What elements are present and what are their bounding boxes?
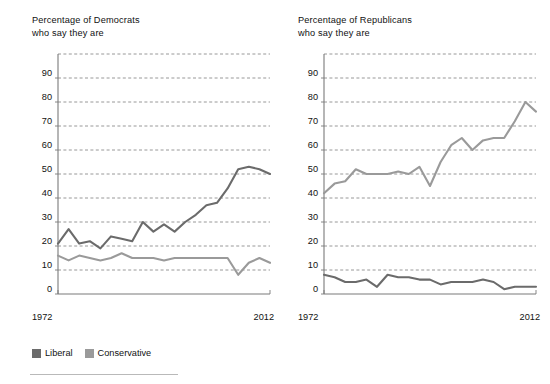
svg-text:0: 0 [47,284,52,294]
svg-text:60: 60 [308,140,318,150]
plot-area-republicans: 0102030405060708090 [298,52,540,310]
svg-text:70: 70 [42,116,52,126]
chart-legend: Liberal Conservative [32,348,151,358]
svg-text:40: 40 [42,188,52,198]
chart-figure: Percentage of Democrats who say they are… [0,0,550,384]
svg-text:0: 0 [313,284,318,294]
svg-text:80: 80 [42,92,52,102]
svg-text:80: 80 [308,92,318,102]
svg-text:10: 10 [308,260,318,270]
plot-svg-democrats: 0102030405060708090 [32,52,274,310]
footer-divider [30,374,178,375]
legend-label-conservative: Conservative [98,348,152,358]
chart-panel-republicans: Percentage of Republicans who say they a… [288,0,546,340]
chart-title-democrats: Percentage of Democrats who say they are [32,14,140,39]
svg-text:70: 70 [308,116,318,126]
legend-swatch-liberal-icon [32,349,41,358]
svg-text:40: 40 [308,188,318,198]
svg-text:50: 50 [42,164,52,174]
chart-panel-democrats: Percentage of Democrats who say they are… [22,0,280,340]
svg-text:30: 30 [308,212,318,222]
svg-text:90: 90 [308,68,318,78]
svg-text:50: 50 [308,164,318,174]
x-tick-start-democrats: 1972 [32,312,52,322]
x-tick-end-democrats: 2012 [254,312,274,322]
x-tick-start-republicans: 1972 [298,312,318,322]
legend-item-liberal: Liberal [32,348,73,358]
x-axis-labels-republicans: 1972 2012 [298,312,540,326]
plot-area-democrats: 0102030405060708090 [32,52,274,310]
chart-title-republicans: Percentage of Republicans who say they a… [298,14,412,39]
plot-svg-republicans: 0102030405060708090 [298,52,540,310]
svg-text:20: 20 [308,236,318,246]
svg-text:60: 60 [42,140,52,150]
svg-text:10: 10 [42,260,52,270]
svg-text:20: 20 [42,236,52,246]
legend-label-liberal: Liberal [45,348,73,358]
x-tick-end-republicans: 2012 [520,312,540,322]
svg-text:90: 90 [42,68,52,78]
x-axis-labels-democrats: 1972 2012 [32,312,274,326]
legend-item-conservative: Conservative [85,348,152,358]
legend-swatch-conservative-icon [85,349,94,358]
svg-text:30: 30 [42,212,52,222]
